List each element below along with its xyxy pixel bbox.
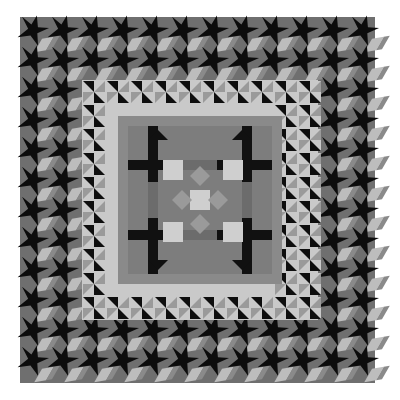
pinwheel-shape [299, 297, 321, 319]
pinwheel-shape [83, 153, 105, 175]
pinwheel-shape [299, 201, 321, 223]
pinwheel-shape [299, 129, 321, 151]
pinwheel-shape [299, 249, 321, 271]
pinwheel-shape [275, 81, 297, 103]
pinwheel-shape [83, 129, 105, 151]
pinwheel-shape [299, 153, 321, 175]
pinwheel-shape [179, 297, 201, 319]
pinwheel-shape [299, 225, 321, 247]
pinwheel-shape [155, 81, 177, 103]
pinwheel-shape [107, 297, 129, 319]
pinwheel-shape [83, 177, 105, 199]
pinwheel-shape [227, 81, 249, 103]
pinwheel-shape [83, 81, 105, 103]
pinwheel-shape [83, 201, 105, 223]
pinwheel-shape [299, 177, 321, 199]
pinwheel-shape [275, 297, 297, 319]
pinwheel-shape [203, 297, 225, 319]
pinwheel-shape [83, 297, 105, 319]
center-medallion [118, 116, 282, 284]
pinwheel-shape [299, 81, 321, 103]
pinwheel-shape [203, 81, 225, 103]
pinwheel-shape [251, 297, 273, 319]
pinwheel-shape [83, 105, 105, 127]
pinwheel-shape [83, 273, 105, 295]
pinwheel-shape [179, 81, 201, 103]
pinwheel-shape [227, 297, 249, 319]
pinwheel-shape [299, 105, 321, 127]
pinwheel-shape [83, 225, 105, 247]
quilt-photo [0, 0, 400, 400]
pinwheel-shape [107, 81, 129, 103]
pinwheel-shape [131, 81, 153, 103]
pinwheel-shape [131, 297, 153, 319]
pinwheel-shape [155, 297, 177, 319]
pinwheel-shape [251, 81, 273, 103]
pinwheel-shape [83, 249, 105, 271]
pinwheel-shape [299, 273, 321, 295]
